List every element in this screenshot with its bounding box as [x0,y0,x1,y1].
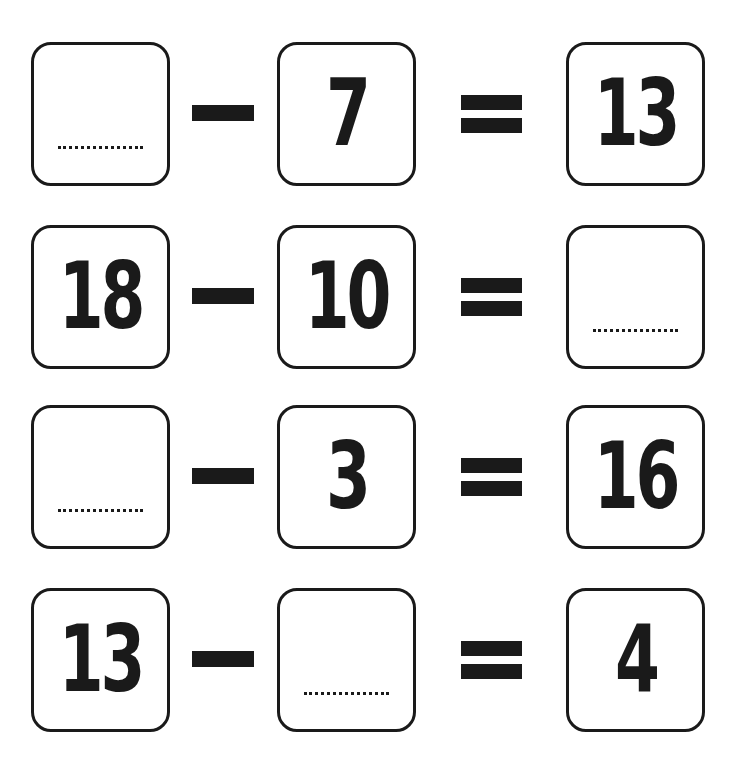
number-value: 16 [594,431,678,523]
number-box: 4 [566,588,705,732]
number-value: 18 [59,251,143,343]
number-box: 16 [566,405,705,549]
dotted-answer-line [304,692,389,695]
number-box: 3 [277,405,416,549]
number-box: 13 [566,42,705,186]
dotted-answer-line [58,146,143,149]
number-value: 10 [305,251,389,343]
number-box: 13 [31,588,170,732]
equals-sign-icon [461,458,522,496]
dotted-answer-line [593,329,678,332]
number-box: 18 [31,225,170,369]
number-box: 10 [277,225,416,369]
equals-bar-bottom [461,481,522,496]
equals-bar-bottom [461,118,522,133]
number-value: 13 [59,614,143,706]
equals-sign-icon [461,95,522,133]
number-value: 4 [615,614,657,706]
minus-sign-icon [192,288,254,304]
answer-blank-box[interactable] [277,588,416,732]
equals-sign-icon [461,641,522,679]
minus-sign-icon [192,468,254,484]
equals-sign-icon [461,278,522,316]
equals-bar-top [461,458,522,473]
equals-bar-top [461,278,522,293]
answer-blank-box[interactable] [31,405,170,549]
equals-bar-bottom [461,301,522,316]
equals-bar-bottom [461,664,522,679]
number-box: 7 [277,42,416,186]
equals-bar-top [461,95,522,110]
equals-bar-top [461,641,522,656]
number-value: 13 [594,68,678,160]
answer-blank-box[interactable] [566,225,705,369]
dotted-answer-line [58,509,143,512]
minus-sign-icon [192,105,254,121]
number-value: 7 [326,68,368,160]
minus-sign-icon [192,651,254,667]
answer-blank-box[interactable] [31,42,170,186]
number-value: 3 [326,431,368,523]
